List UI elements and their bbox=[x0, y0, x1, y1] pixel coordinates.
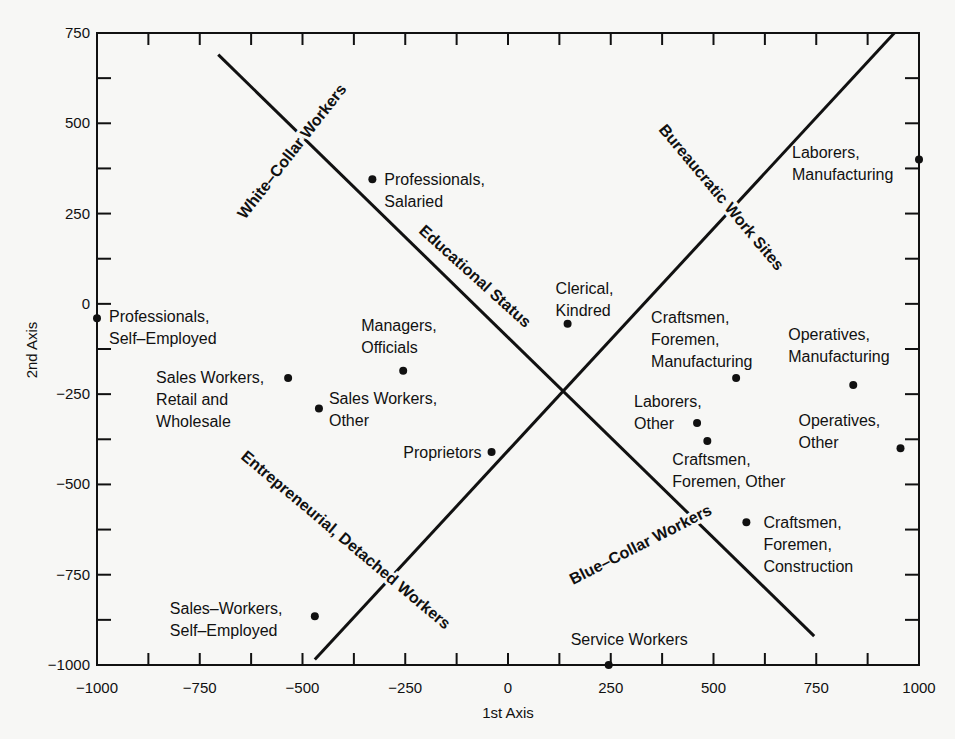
region-label-text: White–Collar Workers bbox=[234, 81, 350, 222]
point-marker bbox=[93, 314, 101, 322]
region-label: Blue–Collar Workers bbox=[567, 501, 715, 588]
point-label: Officials bbox=[361, 339, 418, 356]
point-label: Wholesale bbox=[156, 413, 231, 430]
correspondence-plot: −1000−750−500−25002505007501000 75050025… bbox=[0, 0, 955, 739]
point-label: Manufacturing bbox=[792, 166, 893, 183]
y-tick-label: 500 bbox=[65, 114, 90, 131]
region-label-text: Blue–Collar Workers bbox=[567, 501, 715, 588]
point-label: Kindred bbox=[556, 302, 611, 319]
point-label: Sales Workers, bbox=[156, 369, 264, 386]
data-point: Craftsmen,Foremen,Construction bbox=[742, 514, 853, 575]
point-marker bbox=[897, 444, 905, 452]
data-point: Sales Workers,Other bbox=[315, 390, 437, 429]
point-label: Foremen, bbox=[763, 536, 831, 553]
x-tick-label: −500 bbox=[286, 679, 320, 696]
point-marker bbox=[488, 448, 496, 456]
region-label-text: Educational Status bbox=[416, 222, 534, 331]
y-tick-label: −1000 bbox=[48, 656, 90, 673]
y-tick-label: −750 bbox=[56, 566, 90, 583]
y-axis-title: 2nd Axis bbox=[23, 322, 40, 379]
y-tick-label: 750 bbox=[65, 24, 90, 41]
point-marker bbox=[284, 374, 292, 382]
data-point: Sales–Workers,Self–Employed bbox=[170, 600, 319, 639]
data-point: Proprietors bbox=[403, 444, 495, 461]
point-marker bbox=[693, 419, 701, 427]
point-label: Self–Employed bbox=[109, 330, 217, 347]
data-point: Operatives,Manufacturing bbox=[788, 326, 889, 389]
point-label: Other bbox=[634, 415, 675, 432]
x-tick-label: 500 bbox=[701, 679, 726, 696]
point-label: Professionals, bbox=[384, 171, 485, 188]
data-point: Operatives,Other bbox=[799, 412, 905, 452]
point-label: Proprietors bbox=[403, 444, 481, 461]
x-tick-label: −1000 bbox=[76, 679, 118, 696]
point-label: Craftsmen, bbox=[763, 514, 841, 531]
x-tick-label: 750 bbox=[804, 679, 829, 696]
x-tick-label: 250 bbox=[598, 679, 623, 696]
x-tick-label: −250 bbox=[388, 679, 422, 696]
region-label: Educational Status bbox=[416, 222, 534, 331]
point-label: Laborers, bbox=[792, 144, 860, 161]
point-label: Managers, bbox=[361, 317, 437, 334]
point-label: Manufacturing bbox=[651, 353, 752, 370]
point-label: Manufacturing bbox=[788, 348, 889, 365]
point-marker bbox=[311, 612, 319, 620]
point-marker bbox=[399, 367, 407, 375]
point-label: Service Workers bbox=[571, 631, 688, 648]
point-label: Operatives, bbox=[799, 412, 881, 429]
point-marker bbox=[564, 320, 572, 328]
point-marker bbox=[368, 175, 376, 183]
data-point: Laborers,Other bbox=[634, 393, 702, 432]
point-label: Construction bbox=[763, 558, 853, 575]
point-label: Retail and bbox=[156, 391, 228, 408]
y-tick-label: −250 bbox=[56, 385, 90, 402]
data-point: Sales Workers,Retail andWholesale bbox=[156, 369, 292, 430]
region-label-text: Bureaucratic Work Sites bbox=[656, 121, 788, 273]
point-label: Sales Workers, bbox=[329, 390, 437, 407]
point-marker bbox=[732, 374, 740, 382]
point-marker bbox=[915, 155, 923, 163]
data-point: Professionals,Salaried bbox=[368, 171, 485, 210]
data-point: Service Workers bbox=[571, 631, 688, 669]
y-tick-label: −500 bbox=[56, 475, 90, 492]
point-label: Foremen, Other bbox=[672, 473, 786, 490]
data-point: Managers,Officials bbox=[361, 317, 437, 375]
point-label: Laborers, bbox=[634, 393, 702, 410]
y-tick-label: 0 bbox=[82, 295, 90, 312]
x-tick-label: 0 bbox=[504, 679, 512, 696]
point-marker bbox=[605, 661, 613, 669]
point-label: Sales–Workers, bbox=[170, 600, 283, 617]
point-label: Other bbox=[799, 434, 840, 451]
point-label: Other bbox=[329, 412, 370, 429]
data-points: Professionals,Self–EmployedProfessionals… bbox=[93, 144, 923, 669]
point-marker bbox=[849, 381, 857, 389]
point-label: Operatives, bbox=[788, 326, 870, 343]
x-axis-title: 1st Axis bbox=[482, 704, 534, 721]
data-point: Professionals,Self–Employed bbox=[93, 308, 217, 347]
point-label: Professionals, bbox=[109, 308, 210, 325]
point-label: Craftsmen, bbox=[672, 451, 750, 468]
point-marker bbox=[315, 405, 323, 413]
y-tick-label: 250 bbox=[65, 205, 90, 222]
region-label: Bureaucratic Work Sites bbox=[656, 121, 788, 273]
point-label: Craftsmen, bbox=[651, 309, 729, 326]
x-tick-label: −750 bbox=[183, 679, 217, 696]
data-point: Craftsmen,Foremen,Manufacturing bbox=[651, 309, 752, 382]
point-label: Salaried bbox=[384, 193, 443, 210]
point-label: Clerical, bbox=[556, 280, 614, 297]
point-label: Foremen, bbox=[651, 331, 719, 348]
data-point: Clerical,Kindred bbox=[556, 280, 614, 328]
point-marker bbox=[703, 437, 711, 445]
data-point: Laborers,Manufacturing bbox=[792, 144, 923, 183]
point-label: Self–Employed bbox=[170, 622, 278, 639]
region-label: White–Collar Workers bbox=[234, 81, 350, 222]
x-tick-label: 1000 bbox=[902, 679, 935, 696]
point-marker bbox=[742, 518, 750, 526]
data-point: Craftsmen,Foremen, Other bbox=[672, 437, 786, 490]
